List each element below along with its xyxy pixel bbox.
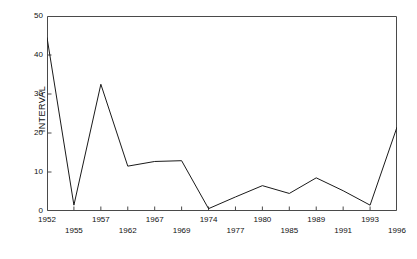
- x-tick-label: 1957: [92, 215, 110, 224]
- x-tick-label: 1967: [146, 215, 164, 224]
- x-tick-label: 1989: [307, 215, 325, 224]
- x-tick-label: 1974: [200, 215, 218, 224]
- x-tick-label: 1991: [334, 226, 352, 235]
- x-tick-label: 1955: [65, 226, 83, 235]
- x-tick-label: 1969: [173, 226, 191, 235]
- x-tick-label: 1993: [361, 215, 379, 224]
- chart-figure: INTERVAL 01020304050 1952195519571962196…: [0, 0, 417, 259]
- x-tick-label: 1985: [280, 226, 298, 235]
- x-tick-label: 1977: [227, 226, 245, 235]
- x-tick-label-group: 1952195519571962196719691974197719801985…: [0, 0, 417, 259]
- x-tick-label: 1952: [38, 215, 56, 224]
- x-tick-label: 1962: [119, 226, 137, 235]
- x-tick-label: 1996: [388, 226, 406, 235]
- x-tick-label: 1980: [253, 215, 271, 224]
